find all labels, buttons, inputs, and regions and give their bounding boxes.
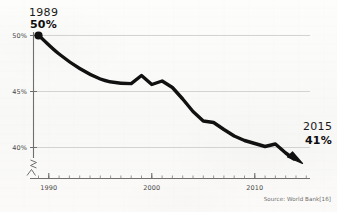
- x-tick-label-2010: 2010: [246, 184, 263, 192]
- line-chart: 50% 45% 40%: [0, 0, 337, 212]
- y-tick-label-40: 40%: [12, 144, 27, 152]
- data-series-line: [34, 31, 302, 163]
- y-tick-label-50: 50%: [12, 32, 27, 40]
- annotation-end-year: 2015: [303, 120, 332, 133]
- series-path: [39, 36, 295, 160]
- x-tick-label-2000: 2000: [143, 184, 160, 192]
- annotation-end: 2015 41%: [303, 120, 332, 147]
- gridlines: [33, 36, 310, 148]
- y-axis: 50% 45% 40%: [12, 32, 37, 168]
- series-start-dot: [34, 31, 42, 39]
- chart-page: 50% 45% 40%: [0, 0, 337, 212]
- annotation-start: 1989 50%: [29, 6, 58, 31]
- x-axis-break-icon: [27, 170, 36, 176]
- source-caption: Source: World Bank[16]: [264, 196, 331, 202]
- annotation-start-value: 50%: [30, 18, 57, 31]
- y-tick-label-45: 45%: [12, 88, 27, 96]
- x-tick-label-1990: 1990: [40, 184, 57, 192]
- annotation-end-value: 41%: [305, 134, 332, 147]
- series-end-arrowhead: [288, 152, 303, 164]
- x-axis: 1990 2000 2010: [27, 170, 310, 193]
- y-axis-break-icon: [31, 160, 37, 168]
